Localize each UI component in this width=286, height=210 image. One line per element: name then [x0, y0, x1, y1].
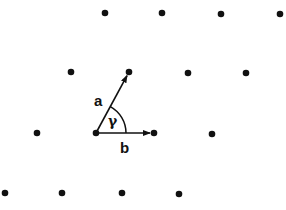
lattice-point	[209, 131, 216, 138]
lattice-point	[34, 130, 41, 137]
lattice-diagram	[0, 0, 286, 210]
vector-a-label: a	[94, 93, 102, 108]
vector-b-label: b	[120, 140, 129, 155]
lattice-point	[68, 69, 75, 76]
lattice-point	[151, 130, 158, 137]
lattice-point	[277, 11, 284, 18]
lattice-points	[2, 10, 284, 198]
lattice-point	[185, 70, 192, 77]
lattice-point	[59, 190, 66, 197]
lattice-point	[102, 10, 109, 17]
lattice-point	[2, 190, 9, 197]
lattice-point	[119, 190, 126, 197]
angle-gamma-label: γ	[108, 114, 117, 128]
lattice-point	[243, 70, 250, 77]
lattice-point	[176, 191, 183, 198]
lattice-point	[126, 69, 133, 76]
lattice-point	[159, 10, 166, 17]
lattice-point	[218, 11, 225, 18]
